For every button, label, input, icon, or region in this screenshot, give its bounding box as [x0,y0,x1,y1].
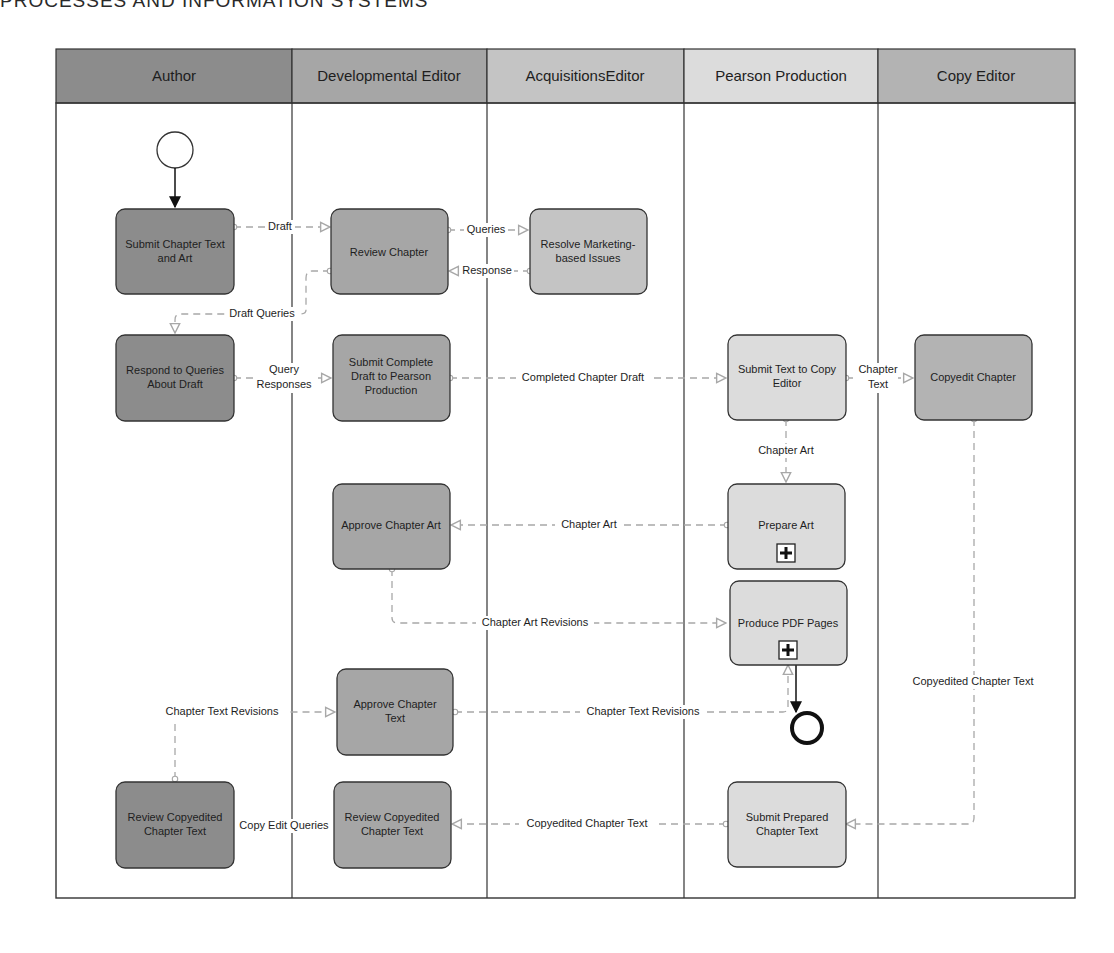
task-review-chapter[interactable]: Review Chapter [331,209,448,294]
lane-title-acquisitions-editor: AcquisitionsEditor [525,67,644,84]
flow-label-query-responses-line1: Query [269,363,299,375]
task-respond-to-queries-about-draft[interactable]: Respond to Queries About Draft [116,335,234,421]
task-submit-prepared-chapter-text[interactable]: Submit Prepared Chapter Text [728,782,846,867]
task-label-line: and Art [158,252,193,264]
task-label-line: Review Copyedited [345,811,440,823]
task-label-line: Production [365,384,418,396]
task-label-line: based Issues [556,252,621,264]
task-label-line: Approve Chapter Art [341,519,441,531]
swimlane-diagram: Author Developmental Editor Acquisitions… [0,0,1114,953]
task-copyedit-chapter[interactable]: Copyedit Chapter [915,335,1032,420]
task-label-line: Review Copyedited [128,811,223,823]
flow-label-chapter-text-line1: Chapter [858,363,897,375]
flow-label-chapter-text-line2: Text [868,378,888,390]
flow-label-queries: Queries [467,223,506,235]
task-label-line: Draft to Pearson [351,370,431,382]
task-label-line: Text [385,712,405,724]
flow-label-copy-edit-queries: Copy Edit Queries [239,819,329,831]
task-label-line: About Draft [147,378,203,390]
task-label-line: Submit Prepared [746,811,829,823]
task-label-line: Produce PDF Pages [738,617,839,629]
start-event-icon [157,132,193,168]
task-label-line: Editor [773,377,802,389]
flow-label-chapter-art-left: Chapter Art [561,518,617,530]
lane-title-developmental-editor: Developmental Editor [317,67,460,84]
task-label-line: Prepare Art [758,519,814,531]
task-prepare-art[interactable]: Prepare Art [728,484,845,569]
subprocess-expand-icon[interactable] [777,544,795,562]
task-review-copyedited-chapter-text-dev[interactable]: Review Copyedited Chapter Text [334,782,451,868]
flow-label-draft-queries: Draft Queries [229,307,295,319]
task-review-copyedited-chapter-text-author[interactable]: Review Copyedited Chapter Text [116,782,234,868]
flow-labels: Draft Queries Response Draft Queries Que… [158,220,1040,833]
flow-label-query-responses-line2: Responses [256,378,312,390]
task-label-line: Respond to Queries [126,364,224,376]
task-label-line: Chapter Text [361,825,423,837]
flow-label-response: Response [462,264,512,276]
task-approve-chapter-art[interactable]: Approve Chapter Art [333,484,450,569]
task-label-line: Resolve Marketing- [541,238,636,250]
task-label-line: Submit Chapter Text [125,238,224,250]
flow-label-chapter-art-down: Chapter Art [758,444,814,456]
lane-title-author: Author [152,67,196,84]
task-submit-complete-draft[interactable]: Submit Complete Draft to Pearson Product… [333,335,450,421]
flow-label-chapter-text-revisions-left: Chapter Text Revisions [166,705,279,717]
subprocess-expand-icon[interactable] [779,641,797,659]
lane-title-pearson-production: Pearson Production [715,67,847,84]
task-label-line: Copyedit Chapter [930,371,1016,383]
task-label-line: Chapter Text [756,825,818,837]
flow-label-completed-chapter-draft: Completed Chapter Draft [522,371,644,383]
task-submit-text-to-copy-editor[interactable]: Submit Text to Copy Editor [728,335,846,420]
flow-label-copyedited-chapter-text-horizontal: Copyedited Chapter Text [527,817,648,829]
task-produce-pdf-pages[interactable]: Produce PDF Pages [730,581,847,665]
task-label-line: Submit Text to Copy [738,363,837,375]
task-label-line: Chapter Text [144,825,206,837]
task-resolve-marketing-based-issues[interactable]: Resolve Marketing- based Issues [530,209,647,294]
task-approve-chapter-text[interactable]: Approve Chapter Text [337,669,453,755]
task-label-line: Approve Chapter [353,698,436,710]
end-event-icon [792,713,822,743]
task-submit-chapter-text-and-art[interactable]: Submit Chapter Text and Art [116,209,234,294]
flow-label-chapter-text-revisions-right: Chapter Text Revisions [587,705,700,717]
task-label-line: Submit Complete [349,356,433,368]
task-label-line: Review Chapter [350,246,429,258]
lane-title-copy-editor: Copy Editor [937,67,1015,84]
flow-label-chapter-art-revisions: Chapter Art Revisions [482,616,589,628]
flow-label-draft: Draft [268,220,292,232]
flow-label-copyedited-chapter-text-vertical: Copyedited Chapter Text [913,675,1034,687]
lane-headers: Author Developmental Editor Acquisitions… [56,49,1075,103]
